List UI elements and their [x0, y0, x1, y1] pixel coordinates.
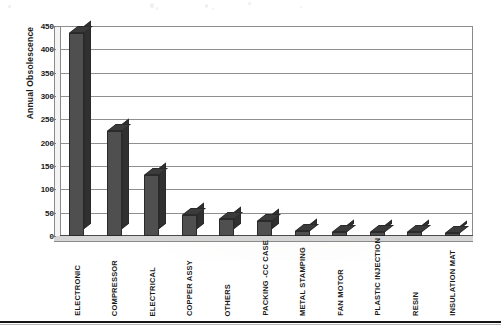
- x-category-label: METAL STAMPING: [298, 247, 307, 316]
- x-category-label: COMPRESSOR: [110, 260, 119, 316]
- bar-top-face: [332, 225, 356, 232]
- y-tick-mark: [51, 119, 56, 120]
- bar: [257, 214, 272, 236]
- bar-side-face: [122, 119, 129, 229]
- x-category-label: INSULATION MAT: [448, 250, 457, 316]
- bar-side-face: [84, 21, 91, 229]
- bar-front-face: [69, 33, 84, 236]
- page-divider-rule: [0, 321, 501, 323]
- bar-side-face: [197, 203, 204, 229]
- bar-front-face: [332, 232, 347, 236]
- bar: [370, 225, 385, 236]
- bar: [332, 225, 347, 236]
- y-tick-mark: [51, 189, 56, 190]
- x-category-label: PACKING -CC CASE: [261, 240, 270, 316]
- x-category-label: PLASTIC INJECTION: [373, 238, 382, 316]
- y-tick-mark: [51, 26, 56, 27]
- bar-series: [60, 26, 473, 236]
- bar-front-face: [257, 221, 272, 236]
- x-axis-category-labels: ELECTRONICCOMPRESSORELECTRICALCOPPER ASS…: [60, 240, 473, 316]
- bar-front-face: [219, 219, 234, 236]
- bar-front-face: [407, 232, 422, 236]
- y-tick-mark: [51, 96, 56, 97]
- x-category-label: COPPER ASSY: [185, 260, 194, 316]
- x-category-label: ELECTRONIC: [73, 265, 82, 316]
- bar-front-face: [295, 231, 310, 236]
- y-tick-mark: [51, 166, 56, 167]
- bar-side-face: [234, 207, 241, 229]
- bar: [144, 168, 159, 236]
- y-tick-mark: [51, 143, 56, 144]
- bar-top-face: [407, 225, 431, 232]
- y-tick-mark: [51, 213, 56, 214]
- bar-front-face: [144, 175, 159, 236]
- bar-front-face: [182, 215, 197, 236]
- bar: [445, 226, 460, 236]
- bar-front-face: [370, 232, 385, 236]
- x-category-label: FAN MOTOR: [336, 269, 345, 316]
- y-axis-title: Annual Obsolescence: [25, 0, 35, 153]
- bar: [107, 124, 122, 236]
- bar: [295, 224, 310, 236]
- y-tick-mark: [51, 73, 56, 74]
- bar-top-face: [295, 224, 319, 231]
- bar: [69, 26, 84, 236]
- bar: [182, 208, 197, 236]
- bar-front-face: [445, 233, 460, 236]
- plot-area: 450400350300250200150100500: [60, 26, 473, 236]
- y-tick-mark: [51, 236, 56, 237]
- page-divider-rule-shadow: [0, 324, 501, 325]
- bar: [219, 212, 234, 236]
- bar-front-face: [107, 131, 122, 236]
- bar-top-face: [445, 226, 469, 233]
- x-category-label: OTHERS: [223, 284, 232, 316]
- x-category-label: ELECTRICAL: [148, 267, 157, 317]
- bar: [407, 225, 422, 236]
- y-tick-mark: [51, 49, 56, 50]
- bar-chart-figure: Annual Obsolescence 45040035030025020015…: [0, 0, 501, 335]
- bar-top-face: [370, 225, 394, 232]
- x-category-label: RESIN: [411, 292, 420, 316]
